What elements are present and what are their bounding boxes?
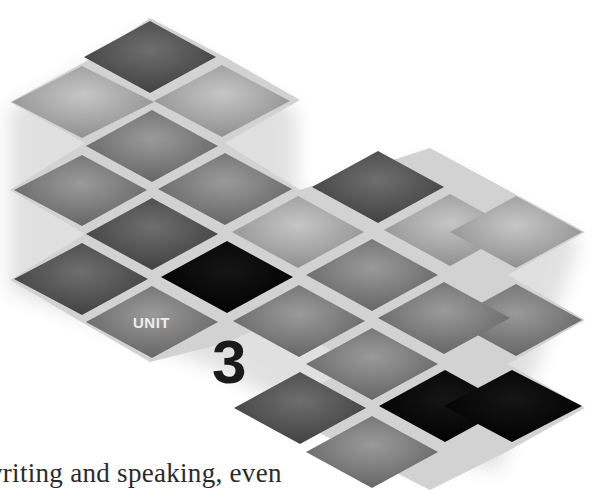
tiles — [12, 21, 582, 488]
unit-number: 3 — [212, 331, 246, 393]
unit-label: UNIT — [133, 314, 170, 331]
body-text-fragment: vriting and speaking, even — [0, 458, 282, 489]
unit-opener: UNIT 3 vriting and speaking, even — [0, 0, 592, 491]
diamond-tile-mosaic — [0, 0, 592, 491]
